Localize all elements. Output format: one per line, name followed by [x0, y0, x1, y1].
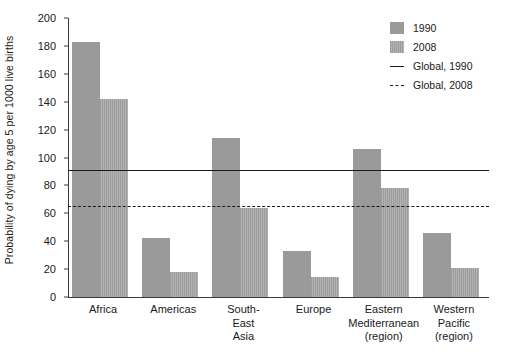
legend-line-solid-icon — [390, 60, 404, 72]
bar-2008-americas — [170, 272, 198, 297]
y-axis-tick-label: 20 — [0, 263, 62, 275]
legend-swatch-striped-icon — [390, 41, 404, 53]
legend-label: Global, 1990 — [413, 60, 473, 72]
y-axis-tick-label: 180 — [0, 40, 62, 52]
legend-swatch-solid-icon — [390, 22, 404, 34]
legend-item-1990: 1990 — [390, 18, 502, 37]
bar-1990-americas — [142, 238, 170, 297]
bar-2008-africa — [100, 99, 128, 297]
x-axis-label-western-pacific-region: WesternPacific(region) — [413, 303, 495, 344]
x-axis-label-line: Asia — [202, 330, 284, 344]
legend-label: 1990 — [413, 22, 436, 34]
y-axis-tick-label: 40 — [0, 235, 62, 247]
x-axis-label-line: Western — [413, 303, 495, 317]
bar-2008-europe — [311, 277, 339, 297]
legend-item-global-2008: Global, 2008 — [390, 75, 502, 94]
x-axis-line — [68, 297, 489, 298]
bar-2008-western-pacific-region — [451, 268, 479, 297]
bar-2008-eastern-mediterranean-region — [381, 188, 409, 297]
x-axis-label-line: (region) — [413, 330, 495, 344]
reference-line-global-1990 — [68, 170, 489, 171]
legend-item-2008: 2008 — [390, 37, 502, 56]
legend-line-dashed-icon — [390, 79, 404, 91]
y-axis-tick-label: 160 — [0, 68, 62, 80]
reference-line-global-2008 — [68, 206, 489, 207]
y-axis-tick-label: 100 — [0, 152, 62, 164]
y-axis-tick-label: 60 — [0, 207, 62, 219]
chart-legend: 19902008Global, 1990Global, 2008 — [390, 18, 502, 94]
bar-1990-eastern-mediterranean-region — [353, 149, 381, 297]
y-axis-tick-label: 200 — [0, 12, 62, 24]
x-axis-label-line: East — [202, 317, 284, 331]
bar-1990-western-pacific-region — [423, 233, 451, 297]
legend-label: 2008 — [413, 41, 436, 53]
bar-chart-figure: Probability of dying by age 5 per 1000 l… — [0, 0, 505, 359]
y-axis-tick-label: 80 — [0, 179, 62, 191]
legend-label: Global, 2008 — [413, 79, 473, 91]
x-axis-label-line: Pacific — [413, 317, 495, 331]
y-axis-tick-label: 0 — [0, 291, 62, 303]
bar-2008-south-east-asia — [240, 208, 268, 297]
y-axis-tick-label: 140 — [0, 96, 62, 108]
y-axis-tick-label: 120 — [0, 124, 62, 136]
bar-1990-south-east-asia — [212, 138, 240, 297]
y-axis-line — [68, 18, 69, 298]
bar-1990-europe — [283, 251, 311, 297]
legend-item-global-1990: Global, 1990 — [390, 56, 502, 75]
